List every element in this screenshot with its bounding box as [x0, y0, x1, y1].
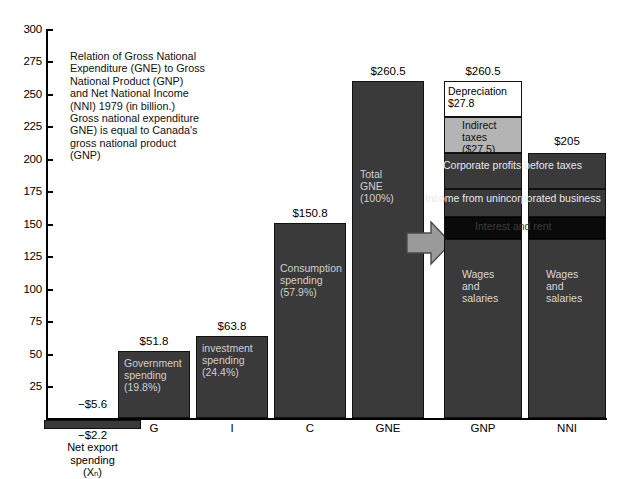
x-label-C: C: [274, 422, 346, 434]
bar-label-investment-spending: investment spending (24.4%): [202, 342, 268, 379]
y-tick-label-50: 50: [8, 349, 42, 360]
y-tick-label-300: 300: [8, 24, 42, 35]
x-label-net-export-spending: Net export spending (Xₙ): [40, 441, 145, 479]
x-label-GNE: GNE: [352, 422, 424, 434]
segment-nni-wages-and-salaries[interactable]: [528, 239, 606, 418]
bar-value-investment: $63.8: [196, 320, 268, 332]
chart-caption: Relation of Gross National Expenditure (…: [70, 50, 250, 162]
x-label-I: I: [196, 422, 268, 434]
y-tick-label-225: 225: [8, 121, 42, 132]
y-tick-175: [46, 191, 53, 193]
bar-label-government-spending: Government spending (19.8%): [124, 357, 190, 394]
bar-consumption-spending[interactable]: [274, 223, 346, 418]
segment-label-wages-gnp: Wages and salaries: [462, 268, 522, 305]
segment-label-wages-nni: Wages and salaries: [546, 268, 606, 305]
y-tick-250: [46, 94, 53, 96]
bar-label-consumption-spending: Consumption spending (57.9%): [280, 262, 350, 299]
bar-value-government: $51.8: [118, 335, 190, 347]
y-tick-25: [46, 386, 53, 388]
y-tick-75: [46, 321, 53, 323]
span-label-interest-and-rent: Interest and rent: [475, 220, 551, 232]
y-tick-100: [46, 289, 53, 291]
y-tick-50: [46, 354, 53, 356]
y-tick-label-275: 275: [8, 56, 42, 67]
bar-value-nni: $205: [528, 135, 606, 147]
x-label-G: G: [118, 422, 190, 434]
y-tick-label-200: 200: [8, 154, 42, 165]
bar-value-gne: $260.5: [352, 65, 424, 77]
y-tick-label-150: 150: [8, 219, 42, 230]
segment-label-depreciation: Depreciation $27.8: [448, 85, 524, 109]
y-tick-label-250: 250: [8, 89, 42, 100]
y-tick-label-175: 175: [8, 186, 42, 197]
y-tick-125: [46, 256, 53, 258]
y-tick-275: [46, 61, 53, 63]
bar-label-total-gne: Total GNE (100%): [360, 168, 422, 205]
y-tick-300: [46, 29, 53, 31]
span-label-corporate-profits: Corporate profits before taxes: [443, 159, 582, 171]
x-label-GNP: GNP: [444, 422, 522, 434]
y-tick-225: [46, 126, 53, 128]
bar-value-consumption: $150.8: [274, 207, 346, 219]
y-tick-label-100: 100: [8, 284, 42, 295]
y-tick-label-75: 75: [8, 316, 42, 327]
y-tick-150: [46, 224, 53, 226]
x-label-NNI: NNI: [528, 422, 606, 434]
segment-label-indirect-taxes: Indirect taxes ($27.5): [462, 119, 522, 156]
y-tick-200: [46, 159, 53, 161]
span-label-unincorporated-business: Income from unincorporated business: [425, 192, 601, 204]
segment-gnp-wages-and-salaries[interactable]: [444, 239, 522, 418]
bar-value-gnp: $260.5: [444, 65, 522, 77]
y-tick-label-25: 25: [8, 381, 42, 392]
y-tick-label-125: 125: [8, 251, 42, 262]
